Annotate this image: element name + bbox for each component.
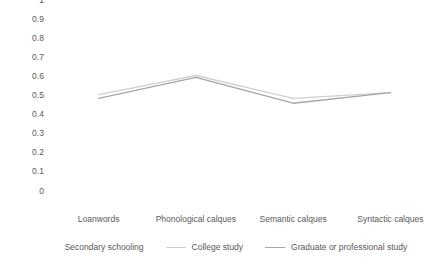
legend-item-label: Secondary schooling	[65, 242, 144, 252]
legend-line-swatch-icon	[39, 247, 59, 248]
y-axis-tick-label: 0.5	[0, 91, 44, 100]
chart-legend: Secondary schoolingCollege studyGraduate…	[0, 238, 446, 256]
series-line	[99, 75, 391, 98]
x-axis-tick-label: Syntactic calques	[357, 214, 423, 224]
legend-line-swatch-icon	[265, 247, 285, 248]
y-axis-tick-label: 0.6	[0, 72, 44, 81]
y-axis: 10.90.80.70.60.50.40.30.20.10	[0, 0, 44, 213]
y-axis-tick-label: 1	[0, 0, 44, 5]
y-axis-tick-label: 0.3	[0, 129, 44, 138]
x-axis-tick-label: Loanwords	[78, 214, 120, 224]
legend-item[interactable]: College study	[166, 242, 244, 252]
x-axis-tick-label: Semantic calques	[260, 214, 327, 224]
y-axis-tick-label: 0.8	[0, 34, 44, 43]
y-axis-tick-label: 0.9	[0, 15, 44, 24]
y-axis-tick-label: 0.4	[0, 110, 44, 119]
line-chart: 10.90.80.70.60.50.40.30.20.10 LoanwordsP…	[0, 0, 446, 270]
legend-item-label: Graduate or professional study	[291, 242, 407, 252]
y-axis-tick-label: 0.7	[0, 53, 44, 62]
x-axis-tick-label: Phonological calques	[156, 214, 236, 224]
plot-svg	[50, 22, 439, 213]
x-axis: LoanwordsPhonological calquesSemantic ca…	[50, 214, 439, 232]
y-axis-tick-label: 0	[0, 187, 44, 196]
series-line	[99, 77, 391, 103]
legend-line-swatch-icon	[166, 247, 186, 248]
y-axis-tick-label: 0.1	[0, 167, 44, 176]
plot-area	[50, 22, 439, 213]
legend-item[interactable]: Secondary schooling	[39, 242, 144, 252]
y-axis-tick-label: 0.2	[0, 148, 44, 157]
legend-item-label: College study	[192, 242, 244, 252]
legend-item[interactable]: Graduate or professional study	[265, 242, 407, 252]
